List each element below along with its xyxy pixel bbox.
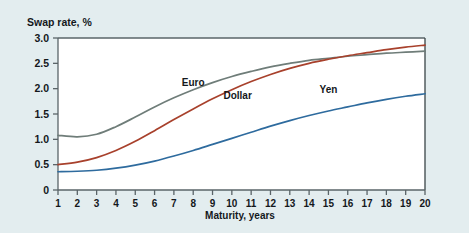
x-tick-label: 4 — [113, 198, 119, 209]
y-tick-label: 1.0 — [34, 133, 49, 145]
x-tick-label: 16 — [342, 198, 354, 209]
x-tick-label: 19 — [400, 198, 412, 209]
swap-rate-chart: 00.51.01.52.02.53.0 12345678910111213141… — [0, 0, 469, 233]
x-tick-label: 3 — [94, 198, 100, 209]
x-tick-label: 7 — [171, 198, 177, 209]
y-tick-label: 3.0 — [34, 32, 49, 44]
y-tick-label: 0 — [43, 184, 49, 196]
series-label-dollar: Dollar — [223, 90, 251, 101]
x-tick-label: 2 — [75, 198, 81, 209]
x-tick-label: 6 — [152, 198, 158, 209]
y-tick-label: 2.0 — [34, 82, 49, 94]
y-tick-label: 2.5 — [34, 57, 49, 69]
x-tick-label: 10 — [226, 198, 238, 209]
y-tick-label: 1.5 — [34, 108, 49, 120]
plot-area-background — [58, 38, 425, 190]
x-tick-label: 13 — [284, 198, 296, 209]
x-axis-title: Maturity, years — [205, 210, 275, 221]
x-tick-label: 14 — [304, 198, 316, 209]
x-tick-label: 5 — [132, 198, 138, 209]
x-tick-label: 15 — [323, 198, 335, 209]
x-tick-label: 18 — [381, 198, 393, 209]
series-label-yen: Yen — [320, 84, 338, 95]
x-tick-label: 20 — [419, 198, 431, 209]
x-tick-label: 9 — [210, 198, 216, 209]
x-tick-label: 11 — [246, 198, 257, 209]
y-tick-label: 0.5 — [34, 158, 49, 170]
chart-title: Swap rate, % — [27, 16, 92, 28]
x-tick-label: 12 — [265, 198, 277, 209]
x-tick-label: 1 — [55, 198, 61, 209]
x-tick-label: 8 — [190, 198, 196, 209]
chart-canvas: 00.51.01.52.02.53.0 12345678910111213141… — [0, 0, 469, 233]
x-tick-label: 17 — [361, 198, 373, 209]
series-label-euro: Euro — [182, 77, 205, 88]
